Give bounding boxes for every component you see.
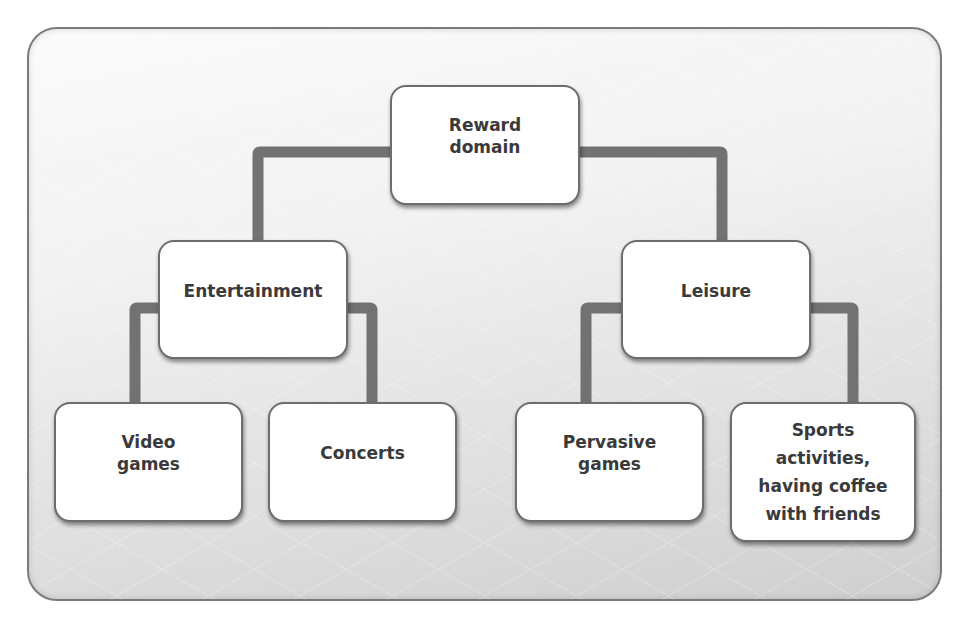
connector-leisure-pervasive — [586, 308, 623, 404]
node-label: Leisure — [681, 280, 751, 302]
connector-entertainment-concerts — [346, 308, 372, 404]
node-label: Concerts — [320, 442, 405, 464]
node-sports-activities: Sports activities, having coffee with fr… — [730, 402, 916, 542]
node-label: Reward domain — [449, 114, 521, 158]
node-reward-domain: Reward domain — [390, 85, 580, 205]
node-concerts: Concerts — [268, 402, 457, 522]
connector-leisure-sports — [809, 308, 853, 404]
node-label: Entertainment — [184, 280, 323, 302]
node-video-games: Video games — [54, 402, 243, 522]
connector-entertainment-videogames — [135, 308, 160, 404]
node-label: Video games — [117, 431, 180, 475]
node-pervasive-games: Pervasive games — [515, 402, 704, 522]
connector-root-leisure — [578, 152, 722, 242]
node-label: Sports activities, having coffee with fr… — [758, 416, 887, 528]
connector-root-entertainment — [258, 152, 392, 242]
node-label: Pervasive games — [563, 431, 656, 475]
node-leisure: Leisure — [621, 240, 811, 359]
node-entertainment: Entertainment — [158, 240, 348, 359]
